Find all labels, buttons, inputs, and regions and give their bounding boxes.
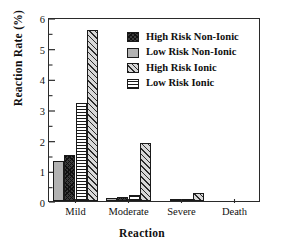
bar xyxy=(129,195,140,201)
y-tick-label: 3 xyxy=(40,106,45,117)
x-tick-label: Mild xyxy=(65,206,85,217)
bar xyxy=(170,199,181,201)
bar xyxy=(106,198,117,201)
y-tick-label: 2 xyxy=(40,136,45,147)
x-tick-label: Moderate xyxy=(108,206,148,217)
bar xyxy=(76,103,87,201)
y-tick-label: 5 xyxy=(40,44,45,55)
chart-figure: Reaction Rate (%) High Risk Non-IonicLow… xyxy=(0,0,284,249)
bar xyxy=(140,143,151,201)
bar xyxy=(64,155,75,201)
y-tick-label: 0 xyxy=(40,198,45,209)
y-tick-label: 1 xyxy=(40,167,45,178)
bar xyxy=(87,30,98,201)
plot-area: High Risk Non-IonicLow Risk Non-IonicHig… xyxy=(48,18,260,202)
bar xyxy=(53,161,64,201)
x-tick-label: Death xyxy=(222,206,247,217)
bar xyxy=(117,197,128,201)
x-tick-label: Severe xyxy=(167,206,196,217)
bar xyxy=(182,199,193,201)
y-tick-label: 6 xyxy=(40,14,45,25)
x-axis-title: Reaction xyxy=(0,227,284,239)
bars-layer xyxy=(49,19,259,201)
y-tick-label: 4 xyxy=(40,75,45,86)
bar xyxy=(193,193,204,201)
y-axis-title: Reaction Rate (%) xyxy=(12,0,24,128)
